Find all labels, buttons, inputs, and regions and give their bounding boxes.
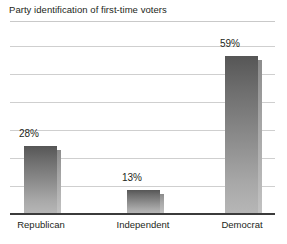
x-tick-label-republican: Republican xyxy=(0,219,87,230)
plot-area: 28% 13% 59% Republican Independent Democ… xyxy=(0,0,287,244)
bar-independent-shadow xyxy=(160,194,164,213)
bar-value-republican: 28% xyxy=(0,128,59,139)
bar-republican xyxy=(24,146,57,213)
bar-value-democrat: 59% xyxy=(200,38,260,49)
bar-republican-shadow xyxy=(57,150,61,213)
bar-chart-figure: Party identification of first-time voter… xyxy=(0,0,287,244)
bar-value-independent: 13% xyxy=(102,172,162,183)
x-tick-label-democrat: Democrat xyxy=(196,219,287,230)
bar-democrat-shadow xyxy=(258,60,262,213)
bar-independent xyxy=(127,190,160,213)
x-axis-line xyxy=(10,213,275,215)
x-tick-label-independent: Independent xyxy=(97,219,189,230)
bar-democrat xyxy=(225,56,258,213)
